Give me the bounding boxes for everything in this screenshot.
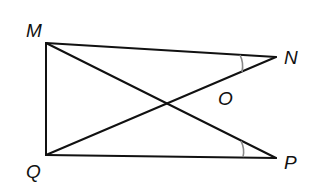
geometry-diagram: M N O P Q: [0, 0, 311, 182]
point-label-O: O: [218, 88, 233, 109]
segment-QP: [46, 155, 276, 158]
segment-MN: [46, 43, 276, 57]
point-label-P: P: [284, 152, 297, 173]
point-label-N: N: [284, 47, 298, 68]
angle-mark-N: [240, 55, 243, 72]
point-label-Q: Q: [26, 161, 41, 182]
angle-mark-P: [241, 141, 244, 157]
point-label-M: M: [26, 20, 42, 41]
